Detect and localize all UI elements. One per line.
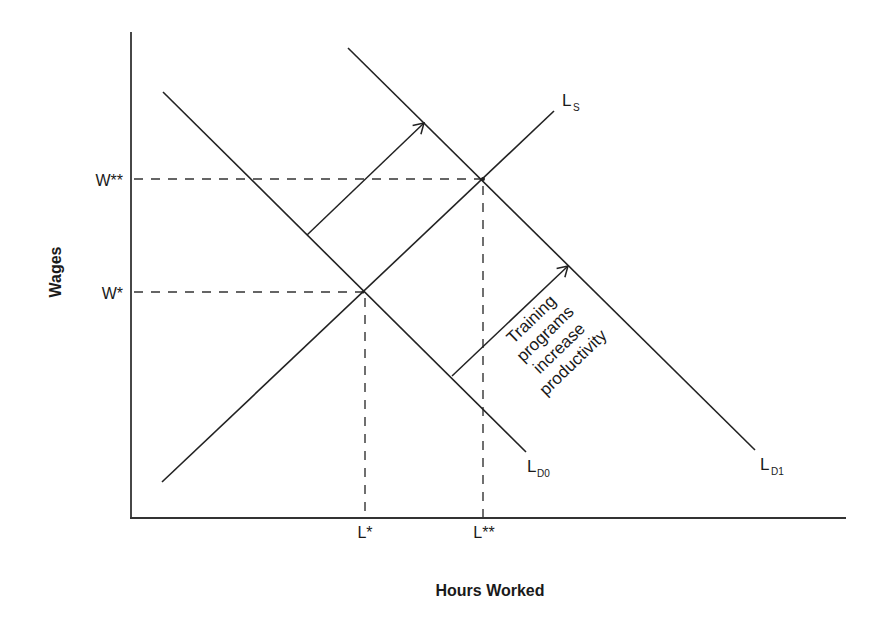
equilibrium-point-1 [481,177,485,181]
svg-text:D0: D0 [537,468,550,479]
svg-text:L: L [527,457,536,476]
labor-market-diagram: W** W* L* L** L S L D0 L D1 Training pro… [0,0,885,624]
ld0-label: L D0 [527,457,550,479]
labor-demand-curve-d0 [163,92,526,452]
x-axis-title: Hours Worked [435,582,544,599]
ls-label: L S [562,91,580,113]
equilibrium-point-0 [362,291,365,294]
w-star-star-label: W** [95,172,123,189]
l-star-star-label: L** [473,524,494,541]
ld1-label: L D1 [760,455,784,477]
svg-text:L: L [760,455,769,474]
training-annotation: Training programs increase productivity [494,282,611,399]
l-star-label: L* [357,524,372,541]
svg-text:S: S [573,102,580,113]
w-star-label: W* [102,285,123,302]
labor-supply-curve [162,111,554,482]
y-axis-title: Wages [47,246,64,297]
svg-text:L: L [562,91,571,110]
svg-text:D1: D1 [771,466,784,477]
